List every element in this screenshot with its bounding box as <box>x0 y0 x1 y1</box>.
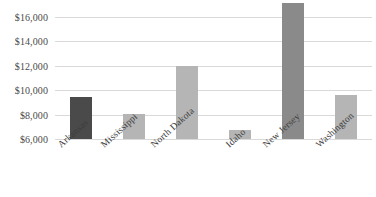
y-tick-label: $6,000 <box>20 134 48 145</box>
y-tick-label: $16,000 <box>15 12 48 23</box>
y-axis: $6,000$8,000$10,000$12,000$14,000$16,000 <box>0 0 52 140</box>
bars-layer <box>55 0 372 140</box>
x-axis: ArkansasMississippiNorth DakotaIdahoNew … <box>55 140 372 197</box>
plot-area <box>55 0 372 140</box>
y-tick-label: $10,000 <box>15 85 48 96</box>
bar[interactable] <box>176 66 198 139</box>
y-tick-label: $8,000 <box>20 109 48 120</box>
y-tick-label: $12,000 <box>15 60 48 71</box>
y-tick-label: $14,000 <box>15 36 48 47</box>
bar-chart: $6,000$8,000$10,000$12,000$14,000$16,000… <box>0 0 376 197</box>
